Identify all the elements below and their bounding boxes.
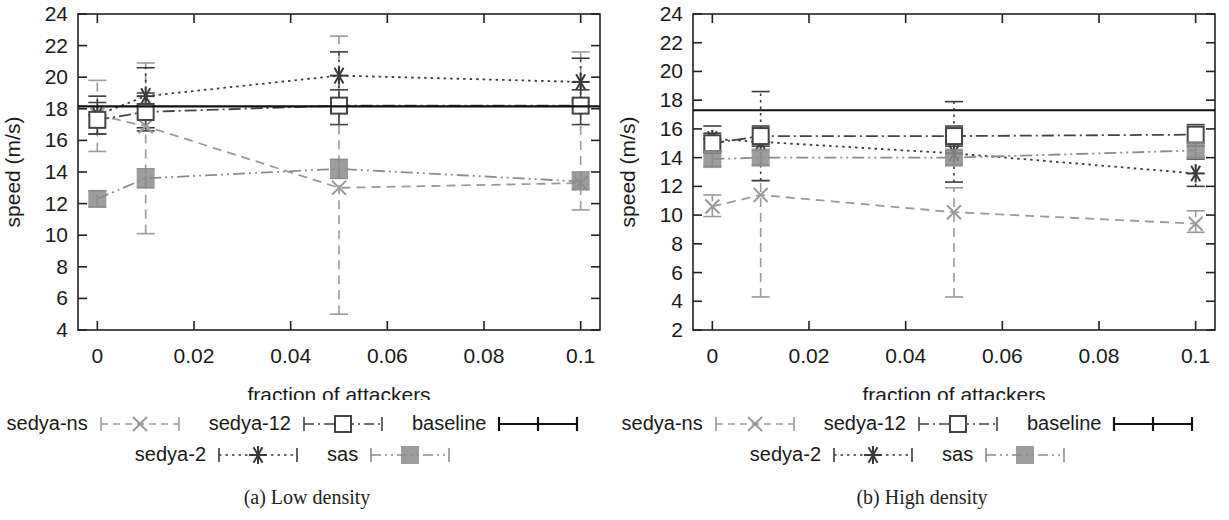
plot-frame [693, 14, 1215, 330]
legend-key-sample [300, 412, 386, 436]
x-tick-label: 0.06 [367, 344, 408, 367]
y-tick-label: 2 [671, 318, 683, 341]
y-tick-label: 6 [56, 286, 68, 309]
y-tick-label: 4 [56, 318, 68, 341]
y-tick-label: 16 [660, 117, 683, 140]
legend-entry-sas[interactable]: sas [942, 443, 1094, 467]
legend-key-sample [97, 412, 183, 436]
y-tick-label: 22 [45, 34, 68, 57]
legend-key-filled-square [367, 443, 453, 467]
marker-open-square [753, 128, 769, 144]
marker-filled-square [401, 446, 419, 464]
legend-row: sedya-nssedya-12baseline [615, 408, 1229, 439]
plot-svg-0: 468101214161820222400.020.040.060.080.1f… [0, 0, 614, 400]
y-tick-label: 14 [45, 160, 69, 183]
legend-key-sample [495, 412, 581, 436]
y-axis-label: speed (m/s) [1, 117, 24, 228]
y-tick-label: 18 [45, 97, 68, 120]
legend-label: sedya-2 [750, 443, 821, 466]
x-tick-label: 0.06 [982, 344, 1023, 367]
legend-label: sas [327, 443, 358, 466]
legend-row: sedya-2sas [0, 439, 614, 470]
x-tick-label: 0.04 [885, 344, 926, 367]
legend-key-open-square [300, 412, 386, 436]
marker-filled-square [572, 172, 590, 190]
legend-key-sample [367, 443, 453, 467]
legend-key-none [495, 412, 581, 436]
legend-label: sedya-2 [135, 443, 206, 466]
marker-filled-square [752, 149, 770, 167]
legend-entry-sedya-12[interactable]: sedya-12 [824, 412, 1027, 436]
caption-low-density: (a) Low density [0, 486, 614, 509]
chart-low-density: 468101214161820222400.020.040.060.080.1f… [0, 0, 614, 400]
legend-key-sample [712, 412, 798, 436]
chart-high-density: 2468101214161820222400.020.040.060.080.1… [615, 0, 1229, 400]
y-tick-label: 22 [660, 31, 683, 54]
legend-key-sample [1110, 412, 1196, 436]
x-tick-label: 0.08 [464, 344, 505, 367]
y-tick-label: 20 [45, 65, 68, 88]
legend-key-none [1110, 412, 1196, 436]
marker-open-square [89, 112, 105, 128]
marker-filled-square [945, 149, 963, 167]
y-tick-label: 24 [45, 2, 69, 25]
legend-high-density: sedya-nssedya-12baselinesedya-2sas [615, 408, 1229, 478]
legend-key-star [830, 443, 916, 467]
caption-high-density: (b) High density [615, 486, 1229, 509]
figure-two-panel-speed-vs-attackers: 468101214161820222400.020.040.060.080.1f… [0, 0, 1229, 520]
y-tick-label: 10 [660, 203, 683, 226]
legend-label: sas [942, 443, 973, 466]
legend-key-sample [830, 443, 916, 467]
marker-open-square [335, 416, 351, 432]
marker-filled-square [703, 150, 721, 168]
legend-row: sedya-nssedya-12baseline [0, 408, 614, 439]
y-tick-label: 14 [660, 146, 684, 169]
legend-key-filled-square [982, 443, 1068, 467]
y-tick-label: 24 [660, 2, 684, 25]
marker-filled-square [1187, 141, 1205, 159]
y-tick-label: 20 [660, 59, 683, 82]
legend-entry-sedya-2[interactable]: sedya-2 [750, 443, 942, 467]
legend-row: sedya-2sas [615, 439, 1229, 470]
legend-label: sedya-ns [7, 412, 88, 435]
marker-filled-square [137, 169, 155, 187]
legend-entry-sedya-ns[interactable]: sedya-ns [7, 412, 209, 436]
y-tick-label: 8 [56, 255, 68, 278]
series-group [693, 92, 1215, 297]
y-tick-label: 4 [671, 289, 683, 312]
y-tick-label: 6 [671, 261, 683, 284]
legend-key-sample [982, 443, 1068, 467]
marker-open-square [1188, 127, 1204, 143]
series-group [78, 36, 600, 314]
legend-label: sedya-12 [824, 412, 906, 435]
y-tick-label: 10 [45, 223, 68, 246]
legend-entry-sedya-2[interactable]: sedya-2 [135, 443, 327, 467]
legend-key-x [97, 412, 183, 436]
y-tick-label: 12 [45, 192, 68, 215]
legend-entry-sedya-12[interactable]: sedya-12 [209, 412, 412, 436]
marker-open-square [704, 135, 720, 151]
legend-label: baseline [412, 412, 487, 435]
series-sedya-ns [705, 188, 1202, 231]
legend-entry-sedya-ns[interactable]: sedya-ns [622, 412, 824, 436]
marker-open-square [946, 128, 962, 144]
legend-label: baseline [1027, 412, 1102, 435]
marker-open-square [950, 416, 966, 432]
marker-filled-square [330, 160, 348, 178]
x-tick-label: 0.1 [566, 344, 595, 367]
x-tick-label: 0.08 [1079, 344, 1120, 367]
y-tick-label: 8 [671, 232, 683, 255]
legend-label: sedya-12 [209, 412, 291, 435]
errorbars-sedya-ns [703, 181, 1204, 297]
legend-key-x [712, 412, 798, 436]
legend-label: sedya-ns [622, 412, 703, 435]
legend-key-open-square [915, 412, 1001, 436]
x-tick-label: 0 [706, 344, 718, 367]
legend-entry-sas[interactable]: sas [327, 443, 479, 467]
legend-key-sample [915, 412, 1001, 436]
legend-entry-baseline[interactable]: baseline [412, 412, 608, 436]
legend-entry-baseline[interactable]: baseline [1027, 412, 1223, 436]
legend-key-sample [215, 443, 301, 467]
y-tick-label: 12 [660, 174, 683, 197]
panel-low-density: 468101214161820222400.020.040.060.080.1f… [0, 0, 614, 520]
